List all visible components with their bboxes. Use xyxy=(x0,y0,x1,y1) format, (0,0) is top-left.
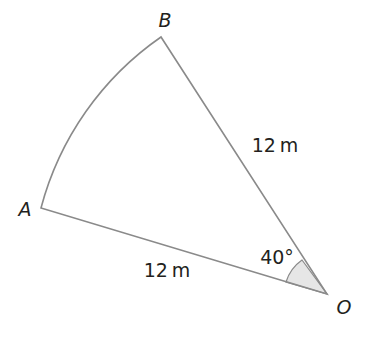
angle-label-o: 40° xyxy=(260,246,294,268)
point-label-a: A xyxy=(17,198,32,220)
point-label-b: B xyxy=(158,9,171,31)
point-label-o: O xyxy=(337,296,352,318)
radius-label-oa: 12 m xyxy=(144,259,190,281)
sector-diagram: B A O 12 m 12 m 40° xyxy=(0,0,367,341)
radius-label-ob: 12 m xyxy=(252,134,298,156)
